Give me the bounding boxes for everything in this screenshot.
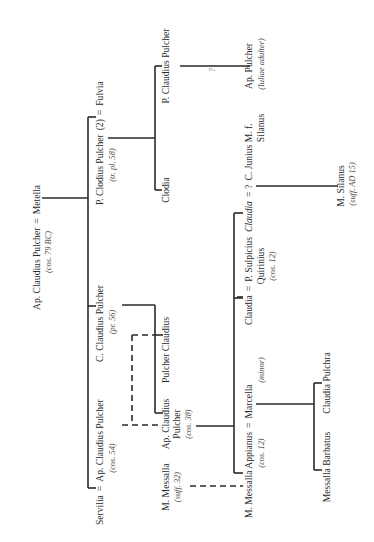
- appianus-marcella-name: M. Messalla Appianus=Marcella: [243, 384, 254, 518]
- claudia-pulchra-name: Claudia Pulchra: [321, 351, 332, 413]
- m-messalla-32-name: M. Messalla: [160, 463, 171, 511]
- messalla-appianus-note: (cos. 12): [257, 438, 266, 468]
- c-junius-name-2: Silanus: [255, 114, 266, 143]
- ap-claudius-38-name-1: Ap. Claudius: [160, 398, 171, 449]
- p-claudius-name: P. Claudius Pulcher: [160, 28, 171, 104]
- marcella-note: (minor): [257, 357, 266, 383]
- c-claudius-note: (pr. 56): [108, 309, 117, 334]
- ap-claudius-cos79-note: (cos. 79 BC): [44, 231, 53, 273]
- p-clodius-note: (tr. pl. 58): [108, 148, 117, 182]
- c-claudius-name: C. Claudius Pulcher: [94, 284, 105, 362]
- pulcher-claudius-name: Pulcher Claudius: [160, 317, 171, 383]
- servilia-ap-claudius-54-name: Servilia=Ap. Claudius Pulcher: [94, 399, 105, 525]
- p-sulpicius-note: (cos. 12): [268, 251, 277, 281]
- ap-claudius-38-note: (cos. 38): [184, 409, 193, 439]
- m-silanus-note: (suff. AD 15): [348, 162, 357, 206]
- ap-pulcher-note: (Iuliae adulter): [257, 38, 266, 90]
- ap-claudius-38-name-2: Pulcher: [171, 409, 182, 439]
- uncertain-mark: ?: [208, 67, 217, 72]
- family-tree-diagram: Ap. Claudius Pulcher=Metella (cos. 79 BC…: [0, 0, 374, 542]
- clodia-name: Clodia: [160, 176, 171, 202]
- ap-claudius-cos79-name: Ap. Claudius Pulcher=Metella: [31, 184, 42, 310]
- claudia-junius-name: Claudia=?C. Junius M. f.: [243, 123, 254, 232]
- claudia-sulpicius-name: Claudia=P. Sulpicius: [243, 237, 254, 325]
- messalla-barbatus-name: Messalla Barbatus: [321, 431, 332, 502]
- m-silanus-name: M. Silanus: [335, 165, 346, 207]
- m-messalla-32-note: (suff. 32): [173, 472, 182, 502]
- p-clodius-fulvia-name: P. Clodius Pulcher(2)=Fulvia: [94, 80, 106, 205]
- p-sulpicius-name-2: Quirinius: [255, 248, 266, 285]
- ap-claudius-54-note: (cos. 54): [108, 443, 117, 473]
- ap-pulcher-name: Ap. Pulcher: [243, 42, 254, 89]
